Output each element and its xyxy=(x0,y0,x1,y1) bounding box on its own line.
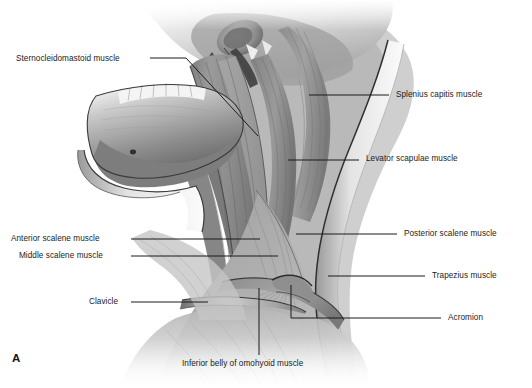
label-middle-scalene: Middle scalene muscle xyxy=(19,251,103,261)
label-inferior-belly-omohyoid: Inferior belly of omohyoid muscle xyxy=(182,359,303,369)
label-posterior-scalene: Posterior scalene muscle xyxy=(404,229,497,239)
label-clavicle: Clavicle xyxy=(89,297,118,307)
label-acromion: Acromion xyxy=(448,313,483,323)
panel-letter: A xyxy=(12,352,20,364)
label-levator-scapulae: Levator scapulae muscle xyxy=(366,154,458,164)
label-sternocleidomastoid: Sternocleidomastoid muscle xyxy=(16,54,120,64)
leader-acromion xyxy=(291,285,441,318)
label-splenius-capitis: Splenius capitis muscle xyxy=(396,90,482,100)
label-trapezius: Trapezius muscle xyxy=(432,271,497,281)
anatomy-figure: Sternocleidomastoid muscle Splenius capi… xyxy=(0,0,532,388)
leader-sternocleidomastoid xyxy=(150,58,258,136)
label-anterior-scalene: Anterior scalene muscle xyxy=(11,234,100,244)
